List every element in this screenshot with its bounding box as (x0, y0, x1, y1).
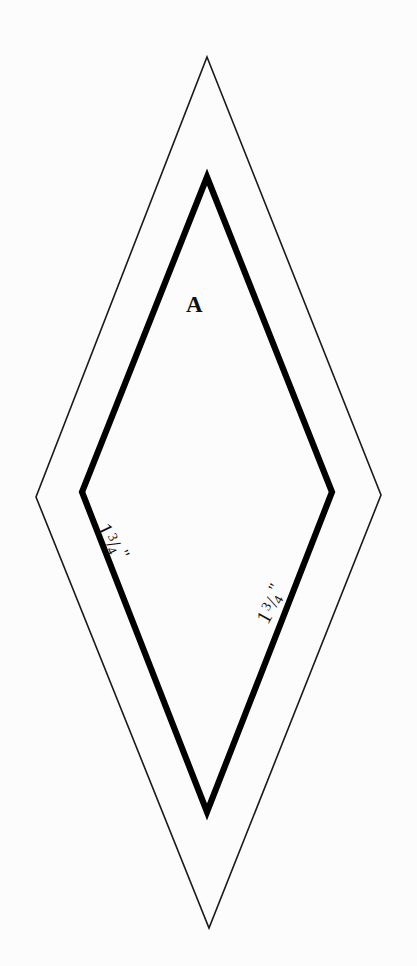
rhombus-diagram (0, 0, 417, 966)
paper-background (0, 0, 417, 966)
diamond-template-figure: A 13/4" 13/4" (0, 0, 417, 966)
